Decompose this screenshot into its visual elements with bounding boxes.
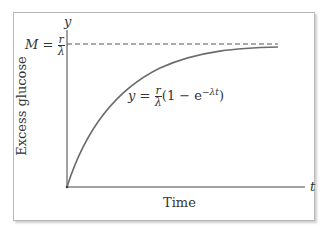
y-axis-label: y [64,14,71,29]
asymptote-lhs: M [25,37,38,52]
asymptote-label: M = r λ [25,34,65,57]
saturation-curve [67,47,278,187]
curve-fraction: r λ [155,85,162,108]
curve-tail: (1 − e [162,88,202,103]
x-axis-label: t [310,179,315,194]
curve-close: ) [219,88,224,103]
curve-exponent: −λt [202,87,219,97]
curve-eq: = [140,88,151,103]
asymptote-fraction: r λ [58,34,65,57]
asymptote-eq: = [42,37,53,52]
origin-point [66,186,69,189]
asymptote-den: λ [58,46,65,57]
y-title: Excess glucose [14,56,29,156]
x-title: Time [163,195,196,210]
curve-equation: y = r λ (1 − e−λt) [128,85,224,108]
curve-den: λ [155,97,162,108]
curve-lhs: y [128,88,135,103]
